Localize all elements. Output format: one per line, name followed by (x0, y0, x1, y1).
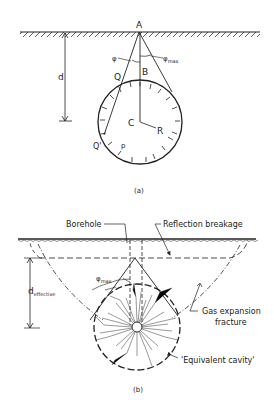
cone-right-b (135, 258, 178, 316)
depth-effective-label: deffective (28, 286, 55, 297)
ground-texture-b (18, 240, 258, 242)
gas-expansion-label-line1: Gas expansion (202, 307, 261, 316)
depth-effective-dimension: deffective (24, 258, 55, 328)
borehole-label: Borehole (66, 220, 102, 229)
diagram-canvas: d A φ φmax B Q C R Q' p (0, 0, 274, 406)
angle-phi-arc (132, 60, 140, 62)
angle-phi-max-arc (140, 55, 151, 56)
radius-line (140, 122, 156, 128)
point-q-prime-label: Q' (93, 142, 102, 151)
figure-a: d A φ φmax B Q C R Q' p (20, 20, 260, 195)
gas-expansion-label-line2: fracture (215, 318, 247, 327)
point-a-label: A (136, 20, 143, 30)
gas-fracture-left (38, 244, 103, 320)
reflection-breakage-line (40, 240, 248, 258)
reflection-breakage-label: Reflection breakage (163, 220, 243, 229)
radius-r-label: R (157, 126, 163, 136)
depth-dimension-a: d (58, 33, 72, 121)
point-q-label: Q (114, 72, 121, 82)
depth-label-a: d (58, 72, 64, 82)
point-b-label: B (142, 67, 148, 77)
caption-a: (a) (134, 187, 144, 195)
angle-phi-max-label: φmax (163, 55, 179, 64)
figure-b: Borehole Reflection breakage deffective … (18, 220, 261, 394)
equivalent-cavity-label: 'Equivalent cavity' (181, 356, 254, 365)
pressure-p-label: p (121, 142, 126, 150)
equivalent-cavity-leader (171, 355, 178, 358)
caption-b: (b) (133, 386, 143, 394)
charge-hole (132, 322, 142, 332)
angle-phi-label: φ (112, 55, 117, 63)
center-c-label: C (128, 118, 134, 128)
